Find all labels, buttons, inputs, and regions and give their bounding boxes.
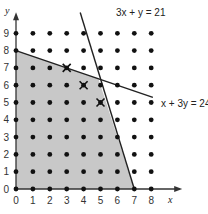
y-axis-label: y <box>4 5 10 16</box>
lattice-point <box>14 187 19 192</box>
lattice-point <box>47 152 52 157</box>
lattice-point <box>98 31 103 36</box>
x-tick-label: 6 <box>115 195 121 206</box>
x-tick-label: 7 <box>132 195 138 206</box>
lattice-point <box>31 187 36 192</box>
lattice-point <box>31 135 36 140</box>
lattice-point <box>47 83 52 88</box>
x-tick-label: 2 <box>47 195 53 206</box>
lattice-point <box>81 48 86 53</box>
lattice-point <box>149 117 154 122</box>
lattice-point <box>98 48 103 53</box>
lattice-point <box>47 169 52 174</box>
x-tick-label: 4 <box>81 195 87 206</box>
lattice-point <box>132 66 137 71</box>
lattice-point <box>31 152 36 157</box>
lattice-point <box>98 117 103 122</box>
y-tick-label: 4 <box>3 114 9 125</box>
lattice-point <box>115 48 120 53</box>
y-tick-label: 5 <box>3 97 9 108</box>
y-tick-label: 0 <box>3 184 9 195</box>
lattice-point <box>115 135 120 140</box>
lattice-point <box>132 152 137 157</box>
y-tick-label: 7 <box>3 62 9 73</box>
lattice-point <box>149 83 154 88</box>
lattice-point <box>31 66 36 71</box>
lattice-point <box>64 83 69 88</box>
lattice-point <box>132 187 137 192</box>
lattice-point <box>47 31 52 36</box>
y-tick-label: 2 <box>3 149 9 160</box>
lattice-point <box>81 187 86 192</box>
lattice-point <box>98 66 103 71</box>
lattice-point <box>14 31 19 36</box>
lattice-point <box>14 152 19 157</box>
lattice-point <box>14 135 19 140</box>
lattice-point <box>132 83 137 88</box>
lattice-point <box>115 83 120 88</box>
lattice-point <box>132 169 137 174</box>
lattice-point <box>47 100 52 105</box>
y-tick-label: 9 <box>3 28 9 39</box>
x-tick-label: 1 <box>30 195 36 206</box>
lattice-point <box>149 135 154 140</box>
lattice-point <box>81 135 86 140</box>
y-tick-label: 3 <box>3 132 9 143</box>
x-tick-label: 3 <box>64 195 70 206</box>
x-axis-label: x <box>167 194 173 205</box>
lattice-point <box>31 117 36 122</box>
lattice-point <box>64 187 69 192</box>
lattice-point <box>98 135 103 140</box>
lattice-point <box>115 152 120 157</box>
y-tick-label: 1 <box>3 166 9 177</box>
line2-label: x + 3y = 24 <box>161 98 208 109</box>
lattice-point <box>31 169 36 174</box>
lattice-point <box>98 187 103 192</box>
lattice-point <box>31 31 36 36</box>
lattice-point <box>14 66 19 71</box>
lattice-point <box>47 48 52 53</box>
x-tick-label: 5 <box>98 195 104 206</box>
lattice-point <box>64 135 69 140</box>
lattice-point <box>81 100 86 105</box>
lattice-point <box>132 100 137 105</box>
y-tick-label: 6 <box>3 80 9 91</box>
lattice-point <box>149 66 154 71</box>
lattice-point <box>14 169 19 174</box>
lattice-point <box>115 66 120 71</box>
lattice-point <box>31 83 36 88</box>
lattice-point <box>115 169 120 174</box>
lattice-point <box>81 117 86 122</box>
x-axis-arrow-icon <box>174 186 182 192</box>
lattice-point <box>98 169 103 174</box>
lattice-point <box>149 169 154 174</box>
lattice-point <box>64 169 69 174</box>
lattice-point <box>64 31 69 36</box>
lattice-point <box>81 152 86 157</box>
lattice-point <box>115 100 120 105</box>
lattice-point <box>149 48 154 53</box>
chart: 0123456780123456789 3x + y = 21 x + 3y =… <box>0 0 208 214</box>
lattice-point <box>14 48 19 53</box>
lattice-point <box>81 169 86 174</box>
y-tick-label: 8 <box>3 45 9 56</box>
line1-label: 3x + y = 21 <box>116 7 166 18</box>
lattice-point <box>115 117 120 122</box>
lattice-point <box>14 117 19 122</box>
lattice-point <box>47 187 52 192</box>
lattice-point <box>64 117 69 122</box>
lattice-point <box>98 152 103 157</box>
lattice-point <box>47 66 52 71</box>
lattice-point <box>149 100 154 105</box>
lattice-point <box>115 31 120 36</box>
lattice-point <box>81 31 86 36</box>
lattice-point <box>47 135 52 140</box>
y-axis-arrow-icon <box>13 12 19 20</box>
lattice-point <box>81 66 86 71</box>
lattice-point <box>47 117 52 122</box>
x-tick-label: 0 <box>13 195 19 206</box>
lattice-point <box>115 187 120 192</box>
lattice-point <box>14 100 19 105</box>
x-tick-label: 8 <box>148 195 154 206</box>
lattice-point <box>132 135 137 140</box>
